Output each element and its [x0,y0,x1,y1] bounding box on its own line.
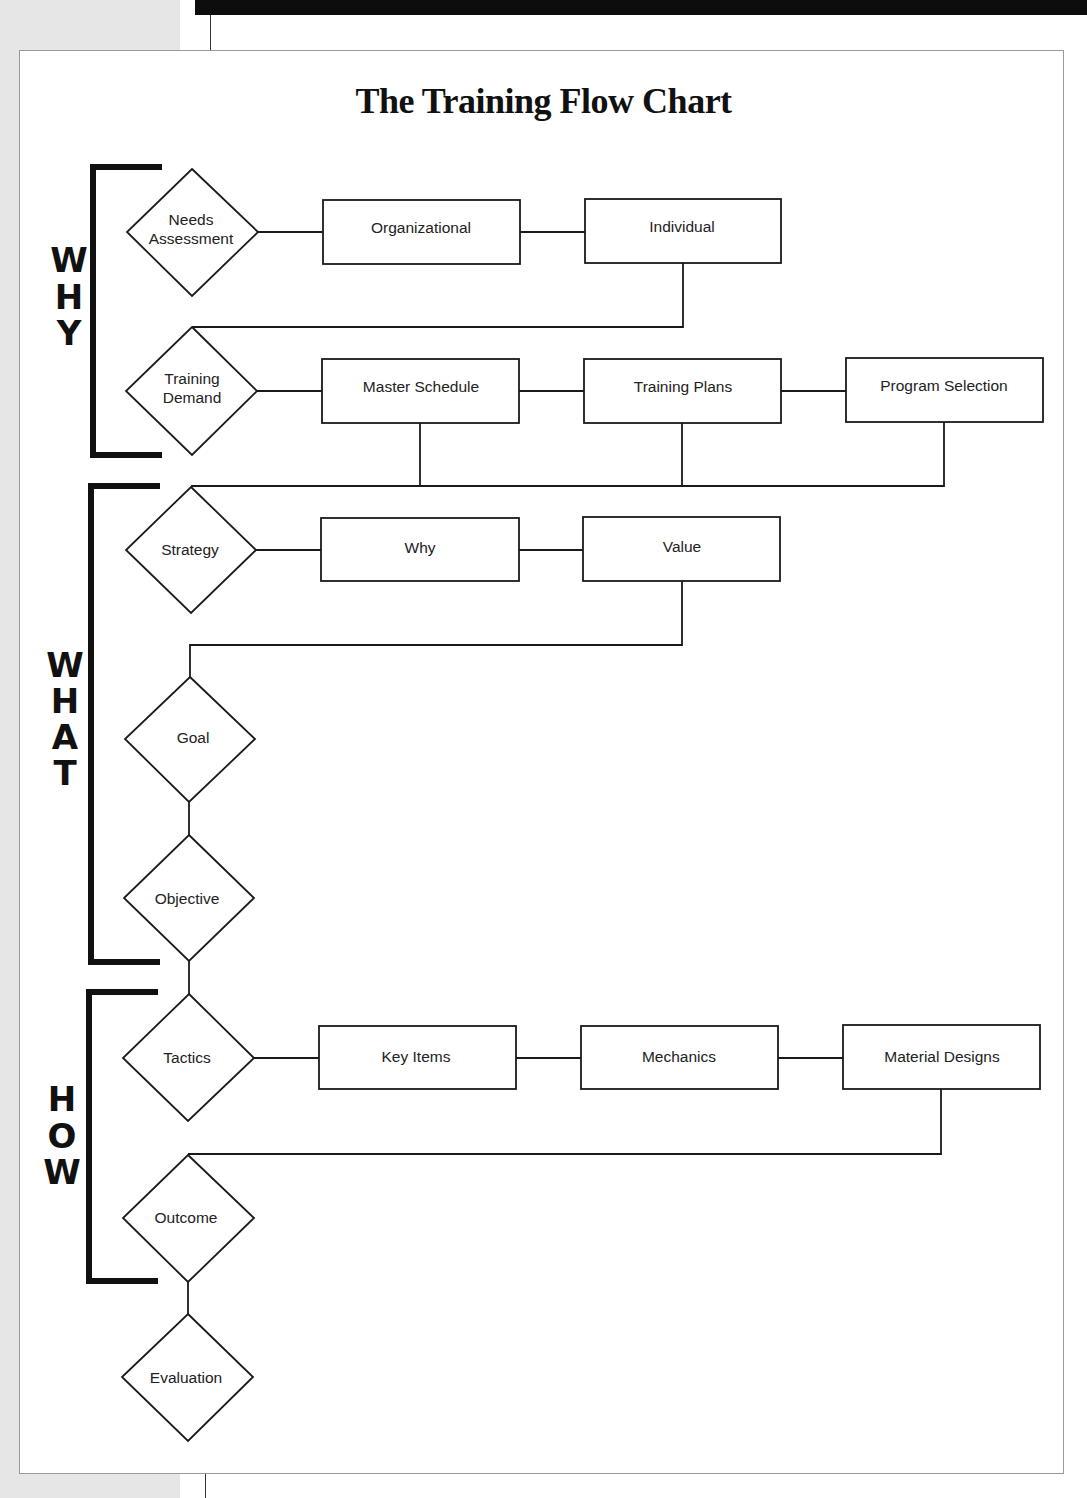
decision-label: Objective [155,890,220,907]
process-label: Why [405,539,436,556]
section-what-letter: W [46,645,84,685]
section-how-letter: W [43,1152,81,1192]
bracket-why [93,167,162,455]
process-label: Training Plans [634,378,733,395]
decision-label: Needs [169,211,214,228]
section-what-letter: H [51,681,79,721]
connector [188,1089,941,1154]
decision-label: Outcome [155,1209,218,1226]
section-what-letter: T [53,753,77,793]
process-label: Material Designs [884,1048,1000,1065]
section-how-letter: H [48,1079,76,1119]
section-how-letter: O [48,1116,77,1156]
decision-label: Tactics [163,1049,211,1066]
section-why-letter: W [50,240,88,280]
process-label: Master Schedule [363,378,479,395]
decision-label: Evaluation [150,1369,222,1386]
process-label: Organizational [371,219,471,236]
process-label: Individual [649,218,715,235]
bracket-what [91,486,160,962]
process-label: Program Selection [880,377,1008,394]
decision-label: Goal [177,729,210,746]
section-why-letter: H [55,277,83,317]
process-label: Key Items [382,1048,451,1065]
decision-label: Demand [163,389,222,406]
decision-label: Training [164,370,219,387]
section-why-letter: Y [56,313,82,353]
process-label: Value [663,538,702,555]
process-label: Mechanics [642,1048,716,1065]
decision-label: Assessment [149,230,234,247]
section-what-letter: A [52,717,79,757]
decision-label: Strategy [161,541,219,558]
connector [192,263,683,327]
flow-chart: W H Y W H A T H O W Needs Assessment Tra… [0,0,1087,1498]
connector [190,581,682,677]
connector [191,422,944,486]
